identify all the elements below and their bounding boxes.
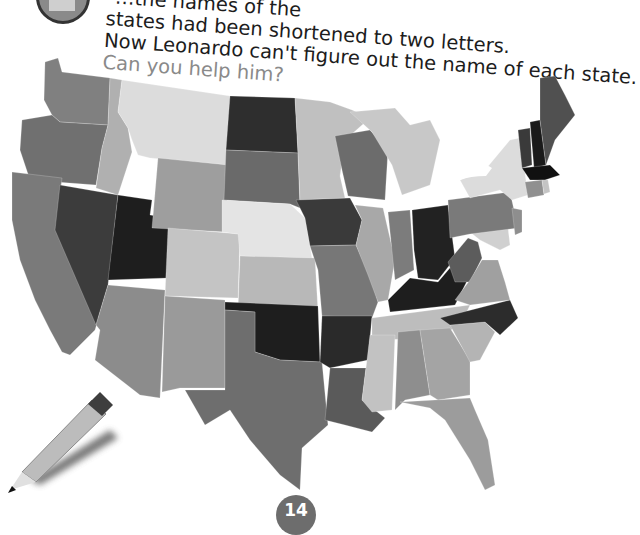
page-number-badge: 14 [276,495,316,535]
